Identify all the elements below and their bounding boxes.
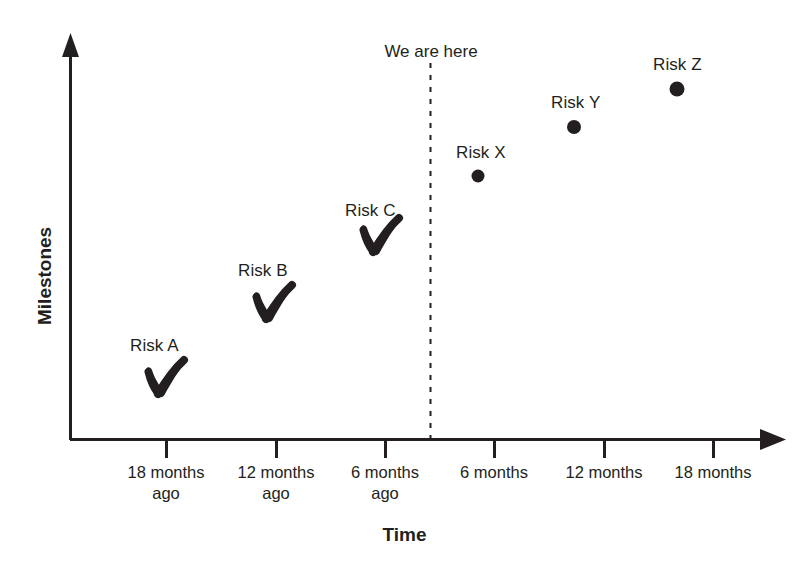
x-axis-title: Time bbox=[382, 524, 426, 546]
marker-dot-risk-y bbox=[567, 120, 581, 134]
point-label-risk-a: Risk A bbox=[130, 335, 179, 356]
marker-checkmark-risk-b bbox=[254, 282, 295, 322]
x-axis-ticks bbox=[167, 440, 714, 458]
point-label-risk-y: Risk Y bbox=[551, 92, 600, 113]
marker-dot-risk-z bbox=[670, 82, 685, 97]
x-tick-label-1-line2: ago bbox=[127, 483, 204, 504]
x-tick-label-3-line2: ago bbox=[351, 483, 419, 504]
y-axis bbox=[62, 33, 79, 440]
y-axis-title: Milestones bbox=[34, 227, 56, 325]
x-tick-label-3: 6 months ago bbox=[351, 462, 419, 504]
point-label-risk-b: Risk B bbox=[238, 260, 288, 281]
x-tick-label-5-line1: 12 months bbox=[565, 462, 642, 483]
x-tick-label-2: 12 months ago bbox=[237, 462, 314, 504]
x-tick-label-1: 18 months ago bbox=[127, 462, 204, 504]
x-tick-label-4: 6 months bbox=[460, 462, 528, 483]
point-label-risk-z: Risk Z bbox=[653, 54, 702, 75]
x-tick-label-2-line2: ago bbox=[237, 483, 314, 504]
chart-container: We are here Risk A Risk B Risk C Risk X … bbox=[0, 0, 809, 567]
marker-checkmark-risk-c bbox=[361, 215, 402, 255]
x-tick-label-1-line1: 18 months bbox=[127, 462, 204, 483]
x-tick-label-4-line1: 6 months bbox=[460, 462, 528, 483]
x-tick-label-5: 12 months bbox=[565, 462, 642, 483]
x-axis bbox=[70, 429, 786, 450]
marker-checkmark-risk-a bbox=[146, 357, 187, 397]
x-tick-label-2-line1: 12 months bbox=[237, 462, 314, 483]
x-tick-label-6: 18 months bbox=[674, 462, 751, 483]
annotation-we-are-here: We are here bbox=[384, 41, 477, 62]
point-label-risk-x: Risk X bbox=[456, 142, 506, 163]
point-label-risk-c: Risk C bbox=[345, 200, 396, 221]
x-tick-label-6-line1: 18 months bbox=[674, 462, 751, 483]
marker-dot-risk-x bbox=[472, 170, 485, 183]
x-tick-label-3-line1: 6 months bbox=[351, 462, 419, 483]
